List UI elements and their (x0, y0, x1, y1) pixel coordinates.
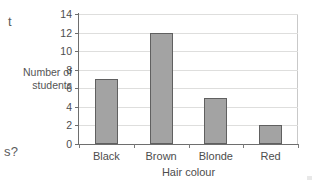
x-axis-tick-label: Red (243, 150, 298, 162)
bar (204, 98, 227, 144)
gridline (79, 70, 298, 71)
y-axis-tick-label: 12 (46, 28, 72, 39)
y-axis-tick (75, 33, 79, 34)
gridline (79, 51, 298, 52)
x-axis-tick-label: Brown (134, 150, 189, 162)
y-axis-tick (75, 70, 79, 71)
bar-chart: BlackBrownBlondeRed (79, 14, 298, 144)
gridline (79, 14, 298, 15)
x-axis-tick (79, 144, 80, 148)
y-axis-tick-label: 10 (46, 46, 72, 57)
y-axis-tick (75, 14, 79, 15)
x-axis-tick-label: Blonde (189, 150, 244, 162)
cropped-text-fragment-bottom: s? (4, 144, 18, 159)
y-axis-tick (75, 88, 79, 89)
y-axis-tick-label: 4 (46, 102, 72, 113)
bar (95, 79, 118, 144)
y-axis-tick-label: 0 (46, 139, 72, 150)
x-axis-tick-label: Black (79, 150, 134, 162)
x-axis-tick (189, 144, 190, 148)
bar (150, 33, 173, 144)
y-axis-tick (75, 51, 79, 52)
y-axis-tick-label: 2 (46, 120, 72, 131)
bar (259, 125, 282, 144)
x-axis-title: Hair colour (79, 166, 298, 178)
y-axis-tick-label: 8 (46, 65, 72, 76)
scan-artifact (307, 176, 312, 180)
gridline (79, 33, 298, 34)
y-axis-tick (75, 125, 79, 126)
chart-page: t s? Number of students BlackBrownBlonde… (0, 0, 316, 186)
y-axis-tick-label: 6 (46, 83, 72, 94)
x-axis-tick (298, 144, 299, 148)
x-axis-tick (134, 144, 135, 148)
y-axis-tick (75, 107, 79, 108)
y-axis-tick-label: 14 (46, 9, 72, 20)
x-axis-tick (243, 144, 244, 148)
cropped-text-fragment-top: t (8, 14, 12, 29)
